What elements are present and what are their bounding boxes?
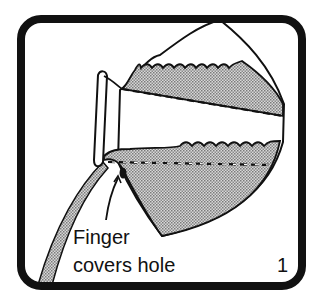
illustration-panel: Finger covers hole 1: [0, 0, 316, 303]
panel-number: 1: [277, 254, 288, 276]
caption-line-1: Finger: [73, 226, 130, 248]
pointer-line: [106, 178, 118, 220]
caption-line-2: covers hole: [73, 254, 175, 276]
jug-spout: [94, 71, 107, 166]
finger-hole-icon: [120, 168, 127, 179]
